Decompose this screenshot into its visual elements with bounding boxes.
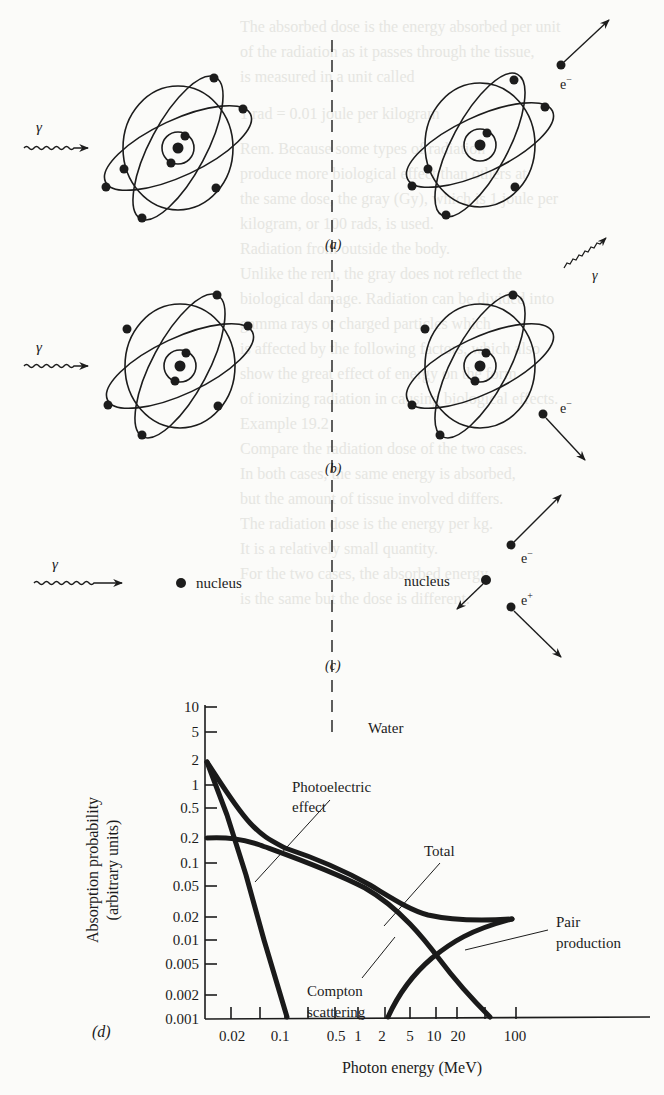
- nucleus-dot: [176, 578, 186, 588]
- annotation-compton: scattering: [307, 1004, 366, 1020]
- x-tick-label: 0.02: [219, 1028, 245, 1044]
- annotation-total: Total: [424, 843, 455, 859]
- electron-label: e−: [560, 398, 572, 416]
- x-tick-label: 1: [354, 1028, 362, 1044]
- annotation-photoelectric: effect: [292, 799, 327, 815]
- scattered-photon-arrow-icon: [564, 238, 606, 268]
- atom-icon: [396, 282, 565, 450]
- x-tick-label: 100: [504, 1028, 527, 1044]
- nucleus-dot: [481, 575, 491, 585]
- panel-caption: (d): [92, 1023, 111, 1041]
- y-ticks: [205, 707, 217, 995]
- annotation-compton: Compton: [307, 983, 363, 999]
- panel-caption: (b): [325, 461, 342, 477]
- arrow-icon: [514, 611, 561, 657]
- y-tick-label: 0.02: [173, 909, 199, 925]
- y-tick-label: 5: [192, 724, 200, 740]
- electron-label: e−: [521, 548, 533, 566]
- y-tick-label: 0.001: [165, 1011, 199, 1027]
- x-tick-label: 20: [451, 1028, 466, 1044]
- wavy-arrow-icon: [24, 365, 88, 368]
- y-tick-label: 0.005: [165, 956, 199, 972]
- gamma-label: γ: [36, 339, 43, 355]
- positron-dot: [507, 603, 516, 612]
- atom-icon: [396, 61, 565, 229]
- arrow-icon: [564, 20, 609, 62]
- y-tick-label: 0.2: [180, 830, 199, 846]
- y-tick-labels: 10 5 2 1 0.5 0.2 0.1 0.05 0.02 0.01 0.00…: [165, 699, 199, 1027]
- x-tick-label: 0.5: [327, 1028, 346, 1044]
- y-tick-label: 2: [192, 752, 200, 768]
- x-tick-label: 10: [427, 1028, 442, 1044]
- electron-label: e−: [560, 74, 572, 92]
- pair-production-curve: [388, 919, 512, 1017]
- x-tick-label: 0.1: [271, 1028, 290, 1044]
- x-axis-title: Photon energy (MeV): [342, 1059, 482, 1077]
- nucleus-label: nucleus: [404, 573, 450, 589]
- gamma-label: γ: [592, 268, 598, 283]
- wavy-arrow-icon: [34, 582, 122, 585]
- x-tick-label: 5: [406, 1028, 414, 1044]
- arrow-icon: [546, 418, 585, 460]
- y-tick-label: 0.002: [165, 987, 199, 1003]
- positron-label: e+: [521, 590, 533, 608]
- y-axis-title: Absorption probability (arbitrary units): [84, 797, 122, 943]
- annotation-pair: Pair: [556, 914, 580, 930]
- recoil-arrow-icon: [457, 584, 483, 609]
- chart-title: Water: [368, 720, 403, 736]
- x-tick-labels: 0.02 0.1 0.5 1 2 5 10 20 100: [219, 1028, 526, 1044]
- wavy-arrow-icon: [24, 147, 88, 150]
- annotation-photoelectric: Photoelectric: [292, 779, 371, 795]
- panel-b-compton: γ γ e− (b): [24, 238, 606, 477]
- y-tick-label: 1: [192, 777, 200, 793]
- panel-caption: (c): [325, 658, 341, 674]
- y-tick-label: 0.01: [173, 932, 199, 948]
- panel-caption: (a): [325, 237, 342, 253]
- absorption-chart: 10 5 2 1 0.5 0.2 0.1 0.05 0.02 0.01 0.00…: [84, 699, 650, 1077]
- x-tick-label: 2: [378, 1028, 386, 1044]
- y-tick-label: 0.05: [173, 878, 199, 894]
- annotation-pair: production: [556, 935, 621, 951]
- arrow-icon: [514, 495, 561, 542]
- y-tick-label: 10: [184, 699, 199, 715]
- nucleus-label: nucleus: [196, 575, 242, 591]
- physics-figure: γ e− (a) γ: [0, 0, 664, 1095]
- atom-icon: [94, 64, 263, 232]
- y-tick-label: 0.5: [180, 800, 199, 816]
- y-tick-label: 0.1: [180, 855, 199, 871]
- panel-a-photoelectric: γ e− (a): [24, 20, 609, 253]
- svg-text:Absorption probability: Absorption probability: [84, 797, 102, 943]
- panel-c-pair-production: γ nucleus nucleus e− e+ (c): [34, 495, 561, 674]
- gamma-label: γ: [36, 119, 43, 135]
- svg-text:(arbitrary units): (arbitrary units): [104, 820, 122, 921]
- leader-lines: [255, 800, 548, 978]
- gamma-label: γ: [52, 556, 59, 572]
- ejected-electron: [539, 410, 548, 419]
- atom-icon: [96, 282, 265, 450]
- photoelectric-curve: [207, 762, 287, 1017]
- x-axis: [205, 1017, 650, 1019]
